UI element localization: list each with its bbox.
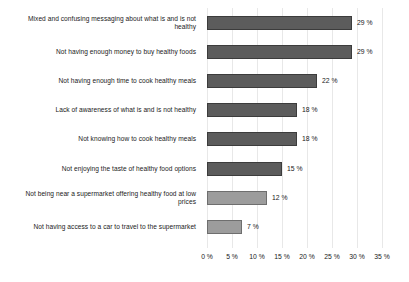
bar-value-label: 29 % [357,16,373,30]
gridline-15% [282,8,283,248]
x-tick-label: 10 % [249,253,265,260]
gridline-0% [207,8,208,248]
x-tick-label: 25 % [324,253,340,260]
gridline-5% [232,8,233,248]
bar [207,132,297,146]
bar [207,191,267,205]
x-tick-label: 20 % [299,253,315,260]
category-label: Not being near a supermarket offering he… [6,190,196,206]
bar-value-label: 12 % [272,191,288,205]
bar [207,220,242,234]
category-label: Not having access to a car to travel to … [6,223,196,231]
bar-value-label: 15 % [287,162,303,176]
bar-chart: Mixed and confusing messaging about what… [0,0,409,282]
gridline-25% [332,8,333,248]
category-label: Not having enough time to cook healthy m… [6,77,196,85]
category-label: Not enjoying the taste of healthy food o… [6,165,196,173]
bar [207,74,317,88]
x-tick-label: 0 % [201,253,213,260]
bar-value-label: 7 % [247,220,259,234]
category-label: Mixed and confusing messaging about what… [6,15,196,31]
category-label-column: Mixed and confusing messaging about what… [0,0,202,282]
bar [207,16,352,30]
bar [207,45,352,59]
plot-area: 29 %29 %22 %18 %18 %15 %12 %7 % [207,0,382,248]
bar-value-label: 18 % [302,103,318,117]
gridline-20% [307,8,308,248]
bar-value-label: 29 % [357,45,373,59]
category-label: Not knowing how to cook healthy meals [6,135,196,143]
bar [207,162,282,176]
category-label: Not having enough money to buy healthy f… [6,48,196,56]
x-tick-label: 5 % [226,253,238,260]
x-tick-label: 35 % [374,253,390,260]
bar-value-label: 22 % [322,74,338,88]
x-axis: 0 %5 %10 %15 %20 %25 %30 %35 % [207,250,382,268]
gridline-30% [357,8,358,248]
x-tick-label: 30 % [349,253,365,260]
bar [207,103,297,117]
bar-value-label: 18 % [302,132,318,146]
category-label: Lack of awareness of what is and is not … [6,106,196,114]
gridline-10% [257,8,258,248]
gridline-35% [382,8,383,248]
x-tick-label: 15 % [274,253,290,260]
